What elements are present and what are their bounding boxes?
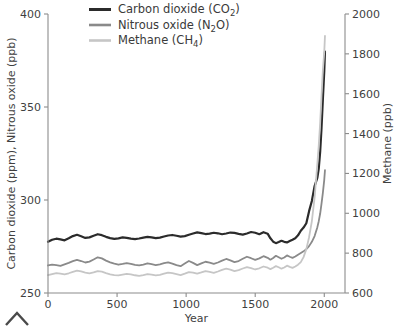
y-right-tick-label: 600 — [352, 287, 373, 300]
x-tick-label: 1000 — [172, 298, 200, 311]
y-axis-right-title: Methane (ppb) — [381, 103, 394, 184]
y-left-tick-label: 250 — [20, 287, 41, 300]
y-left-tick-label: 300 — [20, 194, 41, 207]
legend-label-carbon-dioxide: Carbon dioxide (CO2) — [118, 2, 240, 18]
greenhouse-gas-chart: 2503003504006008001000120014001600180020… — [0, 0, 402, 327]
chart-canvas: 2503003504006008001000120014001600180020… — [0, 0, 402, 327]
x-tick-label: 0 — [45, 298, 52, 311]
y-axis-left-title: Carbon dioxide (ppm), Nitrous oxide (ppb… — [5, 37, 18, 269]
x-tick-label: 500 — [107, 298, 128, 311]
x-tick-label: 2000 — [310, 298, 338, 311]
y-left-tick-label: 400 — [20, 8, 41, 21]
y-right-tick-label: 1800 — [352, 48, 380, 61]
y-right-tick-label: 800 — [352, 247, 373, 260]
chart-background — [0, 0, 402, 327]
y-right-tick-label: 2000 — [352, 8, 380, 21]
y-left-tick-label: 350 — [20, 101, 41, 114]
x-tick-label: 1500 — [241, 298, 269, 311]
y-right-tick-label: 1200 — [352, 167, 380, 180]
legend-label-methane: Methane (CH4) — [118, 33, 203, 49]
x-axis-title: Year — [184, 312, 209, 325]
y-right-tick-label: 1000 — [352, 207, 380, 220]
y-right-tick-label: 1600 — [352, 88, 380, 101]
y-right-tick-label: 1400 — [352, 128, 380, 141]
